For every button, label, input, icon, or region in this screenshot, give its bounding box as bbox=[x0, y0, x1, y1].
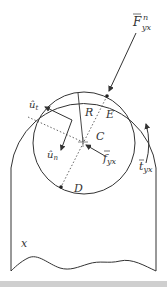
friction-force-label: fyx bbox=[102, 152, 117, 166]
radius-line bbox=[78, 93, 83, 142]
body-outline bbox=[11, 104, 156, 271]
radius-label: R bbox=[84, 106, 93, 119]
normal-force-label: F bbox=[132, 15, 142, 29]
point-e-label: E bbox=[105, 108, 114, 121]
normal-force-arrow bbox=[109, 33, 136, 91]
free-body-diagram: F n yx R E C D ût ûn fyx tyx x bbox=[0, 0, 167, 287]
center-label: C bbox=[96, 130, 105, 143]
unit-n-label: ûn bbox=[47, 149, 58, 162]
unit-t-arrow bbox=[45, 107, 72, 120]
body-label: x bbox=[21, 237, 28, 250]
normal-force-sup: n bbox=[143, 13, 148, 22]
point-d-label: D bbox=[73, 182, 83, 195]
pin-circle bbox=[33, 92, 135, 194]
bottom-bar bbox=[0, 281, 167, 287]
point-d-dot bbox=[59, 185, 63, 189]
unit-n-arrow bbox=[61, 120, 72, 150]
point-e-dot bbox=[105, 94, 109, 98]
normal-force-sub: yx bbox=[141, 23, 152, 32]
unit-t-label: ût bbox=[29, 99, 38, 112]
torque-arrow bbox=[146, 124, 149, 163]
